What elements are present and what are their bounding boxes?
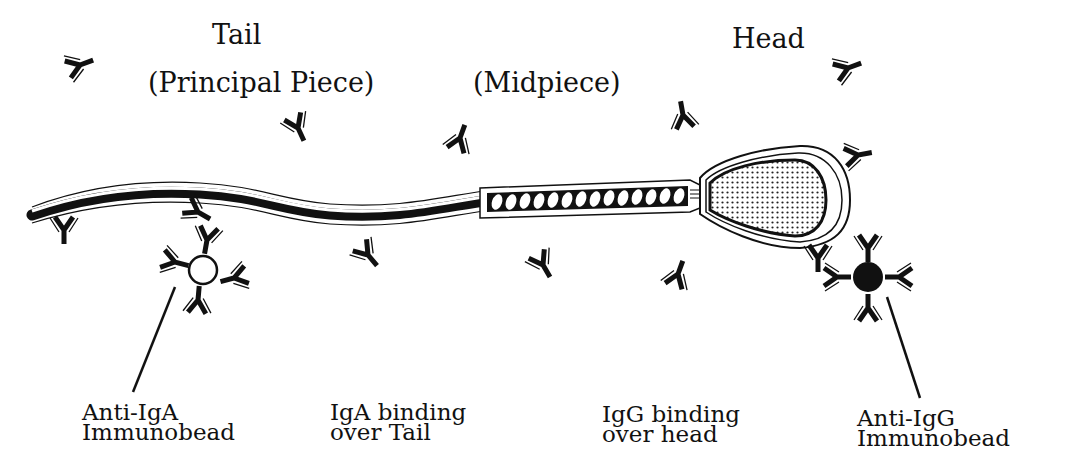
sperm-midpiece [480,180,702,218]
anti-igg-immunobead [824,235,920,398]
label-midpiece: (Midpiece) [473,68,621,98]
label-anti-igg-immunobead: Anti-IgG Immunobead [857,408,1010,448]
sperm-head [700,146,850,248]
label-iga-binding-tail: IgA binding over Tail [330,402,466,442]
label-tail: Tail [212,20,261,50]
anti-iga-immunobead [133,225,250,392]
label-igg-binding-head: IgG binding over head [602,404,740,444]
sperm-tail [32,182,490,225]
sperm-immunobead-diagram: Tail (Principal Piece) (Midpiece) Head A… [0,0,1069,469]
label-principal-piece: (Principal Piece) [148,68,374,98]
label-anti-iga-immunobead: Anti-IgA Immunobead [82,402,235,442]
label-head: Head [732,24,805,54]
